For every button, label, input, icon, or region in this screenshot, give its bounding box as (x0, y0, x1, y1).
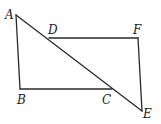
label-b: B (16, 93, 26, 107)
label-e: E (142, 107, 152, 121)
segment-fe (138, 38, 142, 111)
label-c: C (102, 93, 111, 107)
segment-ae (16, 15, 142, 111)
segment-ab (16, 15, 20, 89)
label-f: F (132, 23, 142, 37)
label-a: A (4, 8, 14, 22)
geometry-figure: A D F B C E (0, 0, 161, 124)
label-d: D (47, 23, 58, 37)
